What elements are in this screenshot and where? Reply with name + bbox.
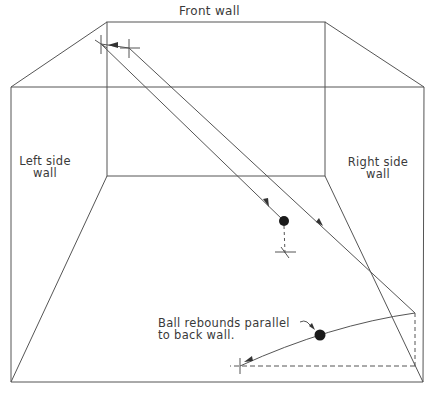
right-wall-edge xyxy=(423,87,424,382)
ceiling-left-edge xyxy=(11,22,107,87)
rebound-annotation: Ball rebounds parallel to back wall. xyxy=(158,317,290,341)
ball-icon xyxy=(279,216,289,226)
ball-icon xyxy=(315,330,326,341)
arrow-left-icon xyxy=(108,42,118,48)
arrow-down-icon xyxy=(244,356,253,362)
right-wall-label-line2: wall xyxy=(342,168,414,180)
ceiling-right-edge xyxy=(325,22,424,87)
front-wall xyxy=(107,22,325,176)
arrow-down-icon xyxy=(263,198,269,207)
right-wall-label: Right side wall xyxy=(342,156,414,180)
cross-marker-icon xyxy=(275,247,296,258)
drop-line-1 xyxy=(284,226,285,253)
left-wall-label-line2: wall xyxy=(17,167,73,179)
front-wall-label: Front wall xyxy=(179,5,240,17)
floor-right-edge xyxy=(325,176,423,382)
shot-path-1 xyxy=(101,44,284,221)
left-wall-label: Left side wall xyxy=(17,155,73,179)
arrow-right-icon xyxy=(309,323,315,330)
annotation-line2: to back wall. xyxy=(158,329,290,341)
floor-left-edge xyxy=(11,176,107,382)
